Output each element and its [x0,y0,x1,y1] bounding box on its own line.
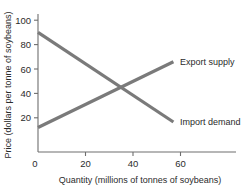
y-axis-title: Price (dollars per tonne of soybeans) [3,11,13,158]
y-tick-label-60: 60 [20,64,31,75]
origin-tick-label: 0 [32,158,37,169]
y-tick-label-20: 20 [20,112,31,123]
y-tick-label-40: 40 [20,88,31,99]
y-tick-label-100: 100 [15,15,31,26]
x-tick-label-20: 20 [80,158,91,169]
import-demand-label: Import demand [180,117,241,127]
y-tick-label-80: 80 [20,39,31,50]
y-axis-ticks [34,20,38,118]
import-demand-line [38,32,173,122]
export-supply-label: Export supply [180,57,235,67]
x-tick-label-40: 40 [128,158,139,169]
chart-container: 100 80 60 40 20 0 20 40 60 Export supply… [0,0,243,190]
x-axis-title: Quantity (millions of tonnes of soybeans… [59,175,222,185]
export-supply-line [38,62,173,128]
soybean-export-import-chart: 100 80 60 40 20 0 20 40 60 Export supply… [0,0,243,190]
x-tick-label-60: 60 [175,158,186,169]
x-axis-ticks [86,152,181,156]
